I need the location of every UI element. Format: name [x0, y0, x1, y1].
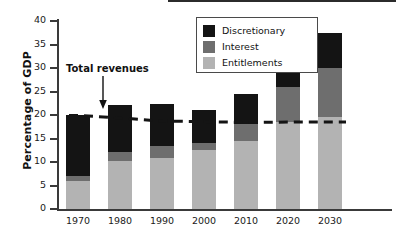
bar-segment-discretionary-1970 [66, 115, 90, 176]
y-tick-40 [50, 20, 57, 22]
bar-segment-interest-2030 [318, 68, 342, 117]
y-tick-label-text: 40 [18, 15, 46, 25]
legend-label-interest: Interest [222, 41, 259, 52]
y-tick-35 [50, 44, 57, 46]
bar-segment-interest-2020 [276, 87, 300, 122]
y-tick-label-5: 5 [18, 180, 46, 190]
y-tick-label-text: 5 [18, 180, 46, 190]
bar-segment-entitlements-1980 [108, 161, 132, 209]
x-axis-line [57, 209, 392, 211]
y-tick-0 [50, 208, 57, 210]
bar-segment-entitlements-2000 [192, 150, 216, 209]
y-tick-label-10: 10 [18, 156, 46, 166]
y-tick-label-40: 40 [18, 15, 46, 25]
chart-legend: Discretionary Interest Entitlements [196, 17, 318, 73]
legend-swatch-entitlements [203, 57, 215, 69]
y-tick-label-text: 25 [18, 86, 46, 96]
y-tick-label-text: 35 [18, 39, 46, 49]
y-tick-label-text: 20 [18, 109, 46, 119]
y-tick-label-35: 35 [18, 39, 46, 49]
bar-1970 [66, 0, 90, 209]
legend-item-interest: Interest [203, 39, 311, 54]
bar-segment-interest-2000 [192, 143, 216, 150]
y-tick-25 [50, 91, 57, 93]
y-tick-label-25: 25 [18, 86, 46, 96]
bar-segment-interest-2010 [234, 124, 258, 140]
y-tick-10 [50, 161, 57, 163]
y-tick-label-text: 15 [18, 133, 46, 143]
bar-2030 [318, 0, 342, 209]
y-tick-15 [50, 138, 57, 140]
bar-segment-entitlements-2020 [276, 122, 300, 209]
y-tick-label-text: 30 [18, 62, 46, 72]
legend-label-entitlements: Entitlements [222, 57, 282, 68]
bar-segment-discretionary-2000 [192, 110, 216, 143]
bar-segment-discretionary-2030 [318, 33, 342, 68]
x-tick-label-1970: 1970 [55, 215, 101, 226]
x-tick-label-2010: 2010 [223, 215, 269, 226]
y-tick-label-20: 20 [18, 109, 46, 119]
legend-item-entitlements: Entitlements [203, 55, 311, 70]
y-tick-30 [50, 67, 57, 69]
bar-segment-entitlements-2010 [234, 141, 258, 209]
bar-1990 [150, 0, 174, 209]
bar-segment-discretionary-1980 [108, 105, 132, 152]
bar-segment-discretionary-1990 [150, 104, 174, 146]
x-tick-label-1990: 1990 [139, 215, 185, 226]
bar-segment-entitlements-1990 [150, 158, 174, 209]
bar-segment-discretionary-2010 [234, 94, 258, 125]
y-tick-5 [50, 185, 57, 187]
total-revenues-annotation-label: Total revenues [66, 63, 149, 74]
y-tick-label-15: 15 [18, 133, 46, 143]
bar-segment-interest-1980 [108, 152, 132, 161]
y-axis-line [57, 19, 59, 211]
bar-segment-interest-1970 [66, 176, 90, 181]
legend-item-discretionary: Discretionary [203, 23, 311, 38]
legend-label-discretionary: Discretionary [222, 25, 285, 36]
x-tick-label-2000: 2000 [181, 215, 227, 226]
chart-figure: Percentage of GDP 0510152025303540 19701… [0, 0, 396, 244]
x-tick-label-1980: 1980 [97, 215, 143, 226]
bar-segment-entitlements-2030 [318, 117, 342, 209]
bar-1980 [108, 0, 132, 209]
legend-swatch-discretionary [203, 25, 215, 37]
bar-segment-entitlements-1970 [66, 181, 90, 209]
x-tick-label-2030: 2030 [307, 215, 353, 226]
y-tick-label-0: 0 [18, 203, 46, 213]
y-tick-label-30: 30 [18, 62, 46, 72]
bar-segment-interest-1990 [150, 146, 174, 158]
y-tick-20 [50, 114, 57, 116]
y-tick-label-text: 0 [18, 203, 46, 213]
x-tick-label-2020: 2020 [265, 215, 311, 226]
y-tick-label-text: 10 [18, 156, 46, 166]
legend-swatch-interest [203, 41, 215, 53]
